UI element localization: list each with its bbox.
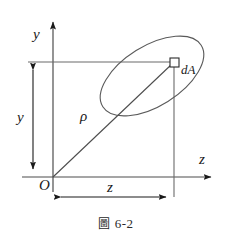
z-dimension-label: z bbox=[107, 180, 113, 195]
y-axis-label: y bbox=[33, 27, 40, 42]
area-element-square bbox=[170, 58, 179, 67]
z-axis-label: z bbox=[199, 152, 205, 167]
rho-radius-line bbox=[53, 64, 172, 177]
area-ellipse bbox=[87, 20, 217, 132]
figure-container: y z O y z ρ dA 圖 6-2 bbox=[0, 0, 232, 242]
figure-caption-cjk: 圖 bbox=[98, 217, 111, 231]
origin-label: O bbox=[39, 178, 50, 193]
figure-caption: 圖 6-2 bbox=[0, 214, 232, 232]
area-element-label: dA bbox=[181, 63, 195, 76]
y-dimension-label: y bbox=[17, 110, 24, 125]
rho-label: ρ bbox=[80, 109, 87, 124]
figure-caption-number: 6-2 bbox=[115, 216, 134, 231]
